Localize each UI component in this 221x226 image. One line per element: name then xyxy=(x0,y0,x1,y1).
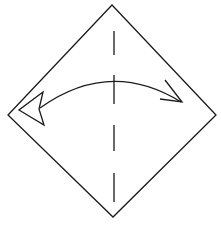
origami-diagram xyxy=(0,0,221,226)
